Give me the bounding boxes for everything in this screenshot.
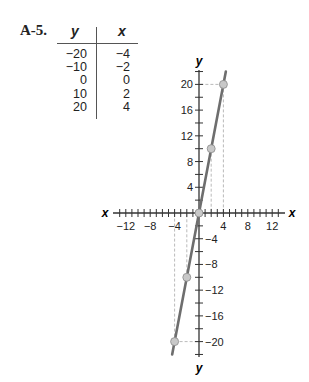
x-axis-label-right: x (288, 206, 297, 220)
data-point (195, 209, 203, 217)
data-point (171, 338, 179, 346)
y-tick-label: 12 (181, 130, 193, 142)
y-tick-label: −16 (205, 310, 224, 322)
x-tick-label: −4 (168, 220, 181, 232)
x-tick-label: 12 (266, 220, 278, 232)
y-tick-label: 8 (187, 156, 193, 168)
data-point (219, 80, 227, 88)
x-tick-label: −8 (144, 220, 157, 232)
data-point (207, 145, 215, 153)
y-tick-label: 20 (181, 78, 193, 90)
y-axis-label-bottom: y (195, 361, 204, 375)
line-plot: −12−8−44812xx20161284−4−8−12−16−20yy (0, 0, 309, 382)
data-point (183, 273, 191, 281)
y-tick-label: −20 (205, 336, 224, 348)
x-tick-label: 4 (220, 220, 226, 232)
y-axis-label-top: y (195, 54, 204, 68)
x-axis-label-left: x (101, 206, 110, 220)
y-tick-label: −12 (205, 284, 224, 296)
y-tick-label: −4 (205, 233, 218, 245)
y-tick-label: −8 (205, 258, 218, 270)
y-tick-label: 4 (187, 181, 193, 193)
y-tick-label: 16 (181, 104, 193, 116)
x-tick-label: 8 (245, 220, 251, 232)
x-tick-label: −12 (116, 220, 135, 232)
